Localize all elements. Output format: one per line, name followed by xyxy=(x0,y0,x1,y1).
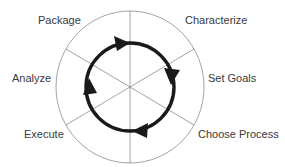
arrow-right-icon xyxy=(164,68,180,85)
step-label-choose-process: Choose Process xyxy=(198,128,279,140)
arrow-top-icon xyxy=(114,36,130,51)
arrow-bottom-icon xyxy=(132,123,148,138)
step-label-package: Package xyxy=(38,14,81,26)
step-label-characterize: Characterize xyxy=(185,14,247,26)
step-label-analyze: Analyze xyxy=(12,72,51,84)
step-label-execute: Execute xyxy=(24,128,64,140)
step-label-set-goals: Set Goals xyxy=(208,72,256,84)
